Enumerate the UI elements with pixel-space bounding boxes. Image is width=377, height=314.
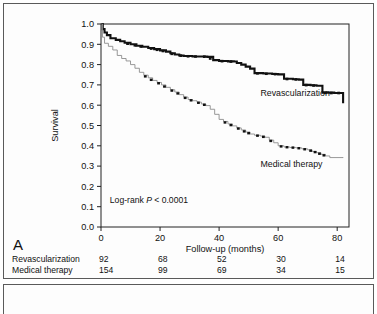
y-tick-label: 0.3	[81, 161, 94, 171]
risk-row: Medical therapy15499693415	[12, 265, 364, 276]
y-tick-label: 0.5	[81, 121, 94, 131]
y-tick-label: 0.8	[81, 60, 94, 70]
censor-mark	[162, 50, 165, 53]
logrank-prefix: Log-rank	[110, 195, 146, 205]
censor-mark	[203, 55, 206, 58]
censor-mark	[330, 92, 333, 95]
censor-mark	[190, 99, 193, 101]
censor-mark	[230, 124, 233, 126]
censor-mark	[265, 72, 268, 75]
censor-mark	[126, 42, 129, 45]
y-axis: 0.00.10.20.30.40.50.60.70.80.91.0	[81, 19, 101, 232]
risk-value: 15	[335, 265, 345, 276]
risk-value: 69	[217, 265, 227, 276]
censor-mark	[170, 89, 173, 91]
y-tick-label: 0.9	[81, 40, 94, 50]
censor-mark	[176, 92, 179, 94]
censor-mark	[314, 151, 317, 153]
risk-value: 92	[99, 254, 109, 265]
risk-row: Revascularization9268523014	[12, 254, 364, 265]
censor-mark	[221, 60, 224, 63]
censor-mark	[224, 121, 227, 123]
censor-mark	[286, 146, 289, 148]
panel-letter: A	[13, 237, 23, 252]
censor-mark	[256, 72, 259, 75]
censor-mark	[163, 85, 166, 87]
censor-mark	[247, 132, 250, 134]
x-tick-label: 0	[98, 233, 103, 243]
censor-mark	[274, 73, 277, 76]
censor-mark	[286, 78, 289, 81]
x-axis: 020406080	[98, 227, 342, 243]
logrank-value: < 0.0001	[152, 195, 188, 205]
x-axis-title: Follow-up (months)	[186, 244, 265, 254]
logrank-annotation: Log-rank P < 0.0001	[110, 195, 188, 205]
risk-value: 14	[335, 254, 345, 265]
censor-mark	[305, 84, 308, 87]
y-tick-label: 1.0	[81, 19, 94, 29]
y-tick-label: 0.4	[81, 141, 94, 151]
censor-mark	[170, 53, 173, 56]
censor-mark	[230, 60, 233, 63]
censor-mark	[292, 146, 295, 148]
censor-mark	[303, 148, 306, 150]
censor-mark	[318, 153, 321, 155]
y-tick-label: 0.1	[81, 202, 94, 212]
censor-mark	[203, 104, 206, 106]
risk-value: 99	[158, 265, 168, 276]
y-tick-label: 0.0	[81, 222, 94, 232]
x-tick-label: 40	[214, 233, 224, 243]
censor-mark	[134, 44, 137, 47]
censor-mark	[312, 84, 315, 87]
risk-row-label: Medical therapy	[12, 265, 73, 276]
censor-mark	[256, 134, 259, 136]
censor-mark	[194, 55, 197, 58]
y-tick-label: 0.7	[81, 80, 94, 90]
risk-row-label: Revascularization	[12, 254, 80, 265]
x-tick-label: 20	[155, 233, 165, 243]
censor-mark	[144, 75, 147, 77]
x-tick-label: 60	[273, 233, 283, 243]
risk-value: 30	[276, 254, 286, 265]
censor-mark	[323, 154, 326, 156]
risk-value: 68	[158, 254, 168, 265]
series-label-2: Medical therapy	[260, 159, 323, 169]
censor-mark	[262, 136, 265, 138]
censor-mark	[150, 79, 153, 81]
risk-value: 154	[99, 265, 113, 276]
censor-mark	[156, 48, 159, 51]
censor-mark	[209, 57, 212, 60]
at-risk-table: Revascularization9268523014Medical thera…	[12, 254, 364, 275]
y-axis-title: Survival	[50, 109, 60, 142]
censor-mark	[139, 45, 142, 48]
censor-mark	[150, 47, 153, 50]
y-tick-label: 0.6	[81, 101, 94, 111]
censor-mark	[243, 130, 246, 132]
x-tick-label: 80	[332, 233, 342, 243]
risk-value: 52	[217, 254, 227, 265]
censor-mark	[184, 97, 187, 99]
censor-mark	[309, 149, 312, 151]
censor-mark	[294, 78, 297, 81]
censor-mark	[269, 140, 272, 142]
series-1: Revascularization	[101, 24, 343, 103]
censor-mark	[237, 127, 240, 129]
y-tick-label: 0.2	[81, 182, 94, 192]
censor-mark	[197, 102, 200, 104]
censor-mark	[297, 147, 300, 149]
censor-mark	[187, 55, 190, 58]
censor-mark	[157, 82, 160, 84]
series-label-1: Revascularization	[260, 88, 330, 98]
censor-mark	[280, 145, 283, 147]
risk-value: 34	[276, 265, 286, 276]
censor-mark	[337, 92, 340, 95]
censor-mark	[179, 54, 182, 57]
